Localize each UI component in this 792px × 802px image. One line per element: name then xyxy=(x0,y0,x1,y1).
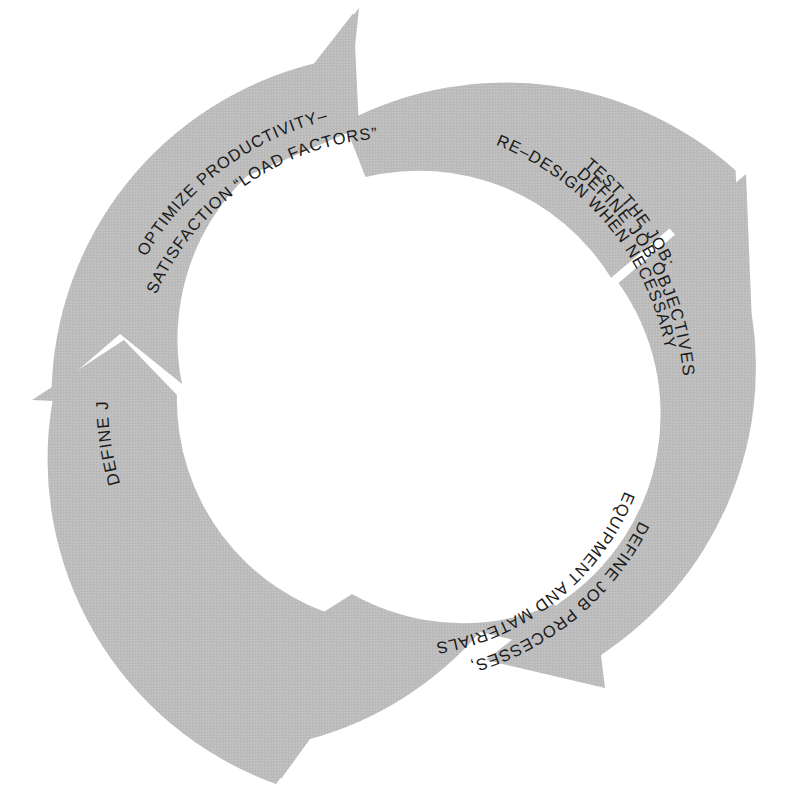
cycle-diagram: DEFINE JOB OBJECTIVES DEFINE JOB CONDITI… xyxy=(0,0,792,802)
segment-optimize-productivity[interactable] xyxy=(32,340,344,784)
cycle-diagram-canvas: DEFINE JOB OBJECTIVES DEFINE JOB CONDITI… xyxy=(0,0,792,802)
arrow-shape-4 xyxy=(32,340,344,784)
